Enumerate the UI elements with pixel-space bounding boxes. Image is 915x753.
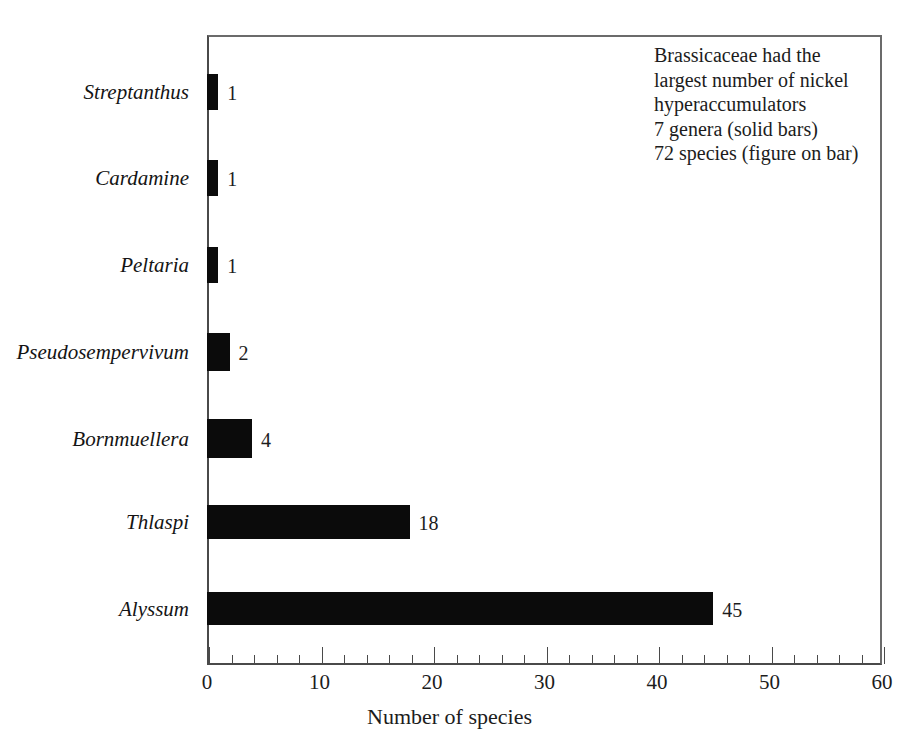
x-axis-tick-label: 30 [534,672,555,693]
category-label: Bornmuellera [72,429,189,450]
bar-value-label: 4 [261,430,271,450]
bar-value-label: 45 [722,600,742,620]
category-label: Pseudosempervivum [16,342,189,363]
x-axis-major-tick [884,647,885,664]
bar-value-label: 2 [239,343,249,363]
category-label: Streptanthus [84,82,189,103]
x-axis-tick-label: 20 [422,672,443,693]
annotation-line: hyperaccumulators [654,92,869,117]
bar[interactable] [207,333,230,371]
annotation-line: 7 genera (solid bars) [654,117,869,142]
bar[interactable] [207,419,252,458]
x-axis-tick-label: 0 [202,672,213,693]
x-axis-tick-label: 50 [759,672,780,693]
x-axis-tick-label: 40 [647,672,668,693]
category-label: Cardamine [95,168,189,189]
bar[interactable] [207,247,218,283]
annotation-line: largest number of nickel [654,68,869,93]
bar[interactable] [207,505,410,539]
category-label: Thlaspi [126,512,189,533]
bar-value-label: 1 [227,83,237,103]
category-label: Peltaria [120,255,189,276]
category-labels: StreptanthusCardaminePeltariaPseudosempe… [0,35,199,665]
x-axis-title-text: Number of species [367,706,532,728]
bar-chart: 111241845 StreptanthusCardaminePeltariaP… [0,0,915,753]
x-axis-tick-label: 10 [309,672,330,693]
bar[interactable] [207,74,218,110]
bar[interactable] [207,160,218,196]
bar[interactable] [207,592,713,625]
annotation-line: Brassicaceae had the [654,43,869,68]
bar-value-label: 1 [227,169,237,189]
category-label: Alyssum [119,599,189,620]
annotation-line: 72 species (figure on bar) [654,141,869,166]
chart-annotation: Brassicaceae had thelargest number of ni… [654,43,869,166]
x-axis-tick-label: 60 [872,672,893,693]
x-axis-title: Number of species [0,706,915,728]
bar-value-label: 1 [227,256,237,276]
bar-value-label: 18 [419,513,439,533]
